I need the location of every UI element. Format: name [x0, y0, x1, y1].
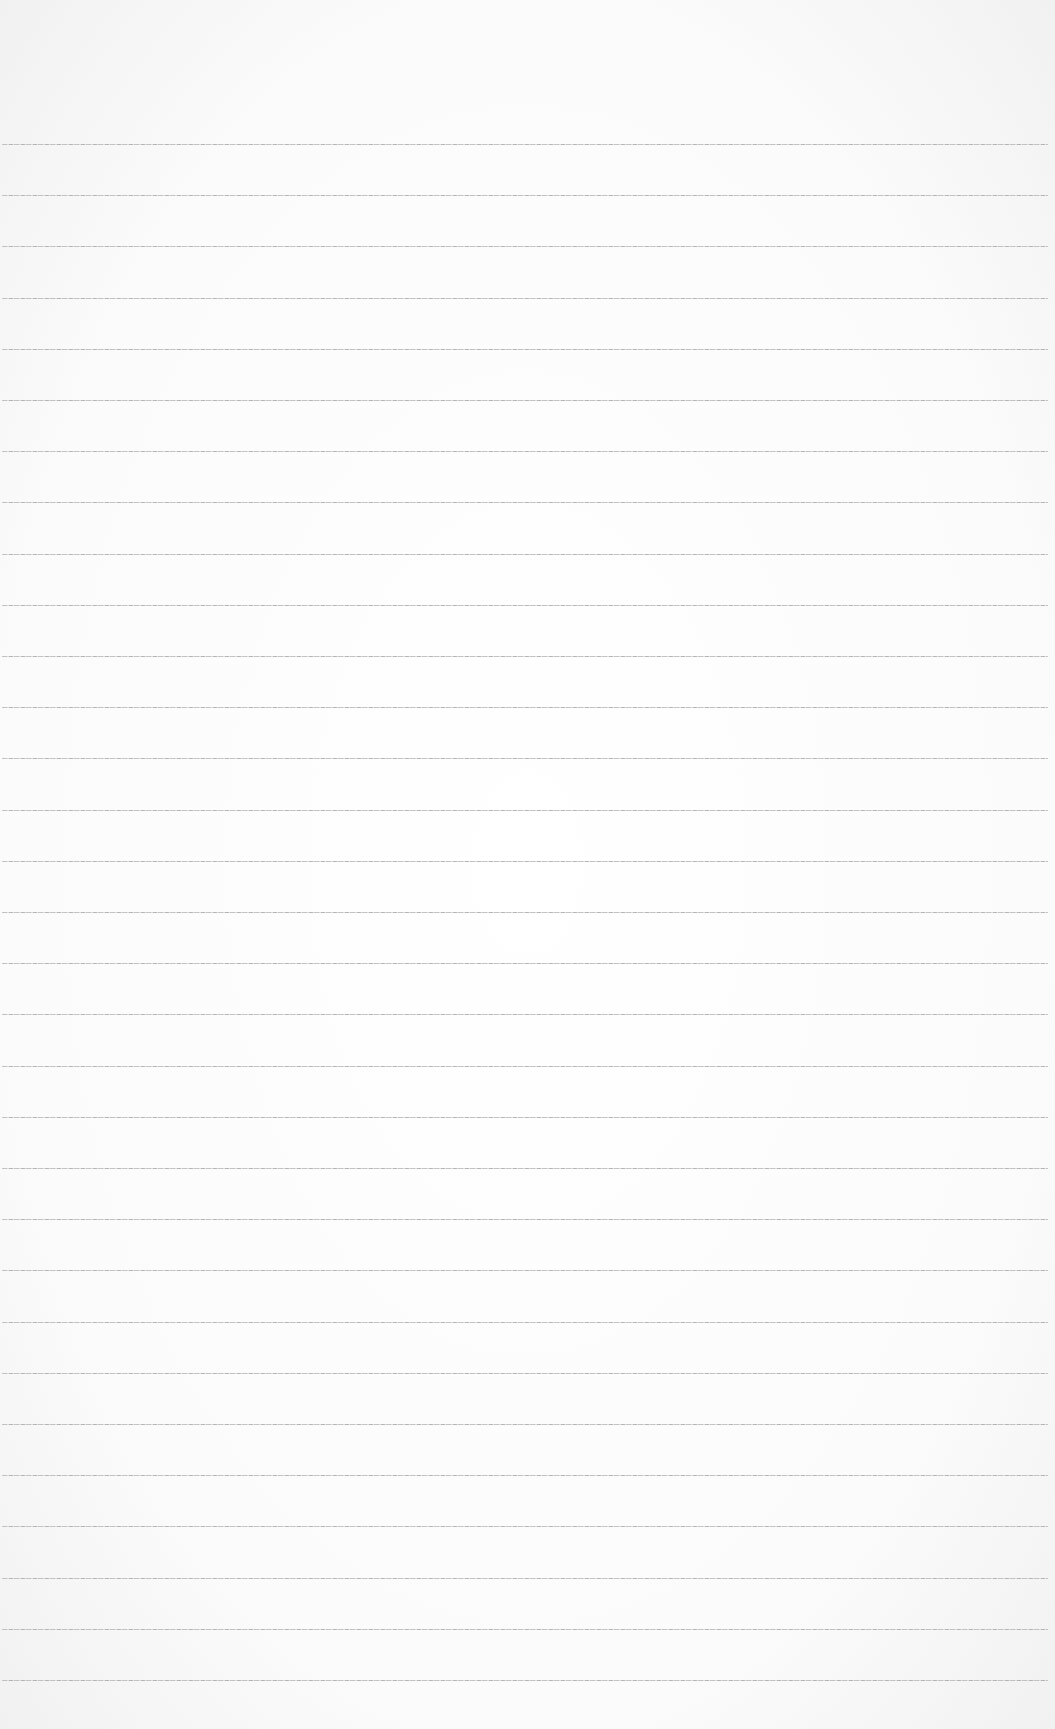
ruled-line: [2, 1424, 1048, 1425]
ruled-line: [2, 1066, 1048, 1067]
ruled-line: [2, 1219, 1048, 1220]
ruled-line: [2, 451, 1048, 452]
ruled-line: [2, 810, 1048, 811]
ruled-line: [2, 707, 1048, 708]
ruled-line: [2, 1014, 1048, 1015]
ruled-line: [2, 298, 1048, 299]
lined-paper-sheet: [0, 0, 1055, 1729]
ruled-line: [2, 144, 1048, 145]
ruled-line: [2, 195, 1048, 196]
ruled-line: [2, 758, 1048, 759]
ruled-line: [2, 400, 1048, 401]
ruled-line: [2, 1373, 1048, 1374]
ruled-line: [2, 1475, 1048, 1476]
ruled-line: [2, 1680, 1048, 1681]
ruled-line: [2, 656, 1048, 657]
ruled-line: [2, 912, 1048, 913]
ruled-line: [2, 1578, 1048, 1579]
ruled-line: [2, 1117, 1048, 1118]
ruled-line: [2, 605, 1048, 606]
ruled-line: [2, 502, 1048, 503]
ruled-line: [2, 1168, 1048, 1169]
ruled-line: [2, 246, 1048, 247]
ruled-line: [2, 963, 1048, 964]
ruled-line: [2, 1322, 1048, 1323]
ruled-line: [2, 861, 1048, 862]
ruled-line: [2, 1629, 1048, 1630]
ruled-line: [2, 1270, 1048, 1271]
ruled-line: [2, 554, 1048, 555]
ruled-line: [2, 349, 1048, 350]
ruled-line: [2, 1526, 1048, 1527]
